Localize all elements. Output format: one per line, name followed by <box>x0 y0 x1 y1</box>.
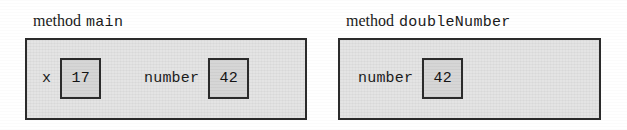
variable-x: x 17 <box>42 58 101 99</box>
method-keyword: method <box>346 12 394 29</box>
variable-value-box: 42 <box>422 58 463 99</box>
method-frame-group-doublenumber: methoddoubleNumber number 42 <box>338 10 601 120</box>
method-name: doubleNumber <box>399 14 511 31</box>
variable-number: number 42 <box>144 58 249 99</box>
method-name: main <box>86 14 123 31</box>
method-frame-doublenumber: number 42 <box>338 38 601 120</box>
method-keyword: method <box>33 12 81 29</box>
variable-value-box: 42 <box>208 58 249 99</box>
variable-name-label: number <box>358 70 413 87</box>
method-caption-main: methodmain <box>33 12 123 32</box>
method-frame-group-main: methodmain x 17 number 42 <box>25 10 307 120</box>
variable-value-box: 17 <box>60 58 101 99</box>
variable-name-label: number <box>144 70 199 87</box>
method-frame-main: x 17 number 42 <box>25 38 307 120</box>
variable-number: number 42 <box>358 58 463 99</box>
method-frames-diagram: methodmain x 17 number 42 methoddoubleNu… <box>0 0 627 130</box>
method-caption-doublenumber: methoddoubleNumber <box>346 12 511 32</box>
variable-name-label: x <box>42 70 51 87</box>
